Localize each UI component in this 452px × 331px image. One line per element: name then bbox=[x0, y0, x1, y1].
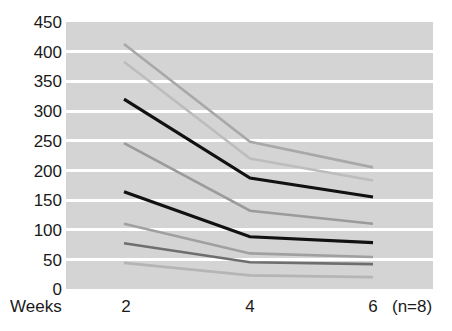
series-line-subject-8 bbox=[124, 263, 373, 277]
y-axis: 450 400 350 300 250 200 150 100 50 0 bbox=[0, 0, 62, 331]
series-line-subject-3 bbox=[124, 99, 373, 197]
x-axis: Weeks 2 4 6 (n=8) bbox=[0, 294, 452, 324]
y-tick-label-50: 50 bbox=[2, 252, 62, 269]
series-layer bbox=[66, 22, 433, 289]
y-tick-label-400: 400 bbox=[2, 44, 62, 61]
x-tick-label-4: 4 bbox=[237, 298, 263, 315]
x-tick-label-6: 6 bbox=[360, 298, 386, 315]
y-tick-label-150: 150 bbox=[2, 192, 62, 209]
x-axis-title: Weeks bbox=[10, 298, 62, 315]
y-tick-label-450: 450 bbox=[2, 14, 62, 31]
y-tick-label-100: 100 bbox=[2, 222, 62, 239]
plot-area bbox=[66, 22, 433, 289]
series-line-subject-5 bbox=[124, 192, 373, 243]
series-line-subject-4 bbox=[124, 143, 373, 224]
line-chart: 450 400 350 300 250 200 150 100 50 0 Wee… bbox=[0, 0, 452, 331]
series-line-subject-1 bbox=[124, 44, 373, 167]
y-tick-label-250: 250 bbox=[2, 133, 62, 150]
sample-size-annotation: (n=8) bbox=[392, 298, 432, 315]
x-tick-label-2: 2 bbox=[113, 298, 139, 315]
y-tick-label-350: 350 bbox=[2, 73, 62, 90]
y-tick-label-200: 200 bbox=[2, 163, 62, 180]
y-tick-label-300: 300 bbox=[2, 103, 62, 120]
